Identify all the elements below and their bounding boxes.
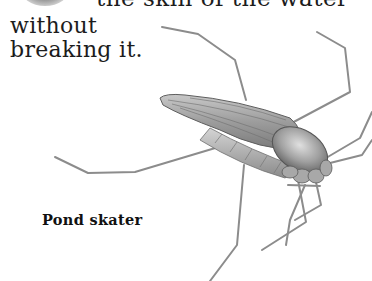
leg-lower-front-a	[262, 180, 306, 250]
foreleg-short	[288, 185, 320, 186]
leg-upper-right	[288, 32, 350, 125]
leg-middle-left	[55, 146, 222, 173]
illustration-caption: Pond skater	[42, 211, 142, 228]
pond-skater-illustration	[0, 0, 372, 281]
leg-lower-left	[210, 165, 244, 281]
leg-upper-left	[162, 27, 246, 100]
